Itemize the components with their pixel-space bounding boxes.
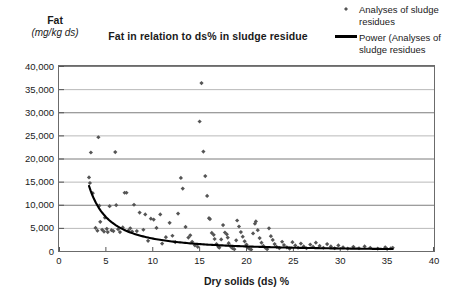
y-tick-marks (59, 67, 64, 252)
x-tick-label: 20 (241, 256, 252, 266)
plot-svg (59, 66, 434, 251)
y-tick-label: 35,000 (6, 85, 54, 95)
x-tick-label: 25 (288, 256, 299, 266)
chart-title: Fat in relation to ds% in sludge residue (88, 30, 328, 42)
legend-label-scatter: Analyses of sludge residues (359, 4, 466, 27)
y-tick-label: 25,000 (6, 131, 54, 141)
legend-item-scatter: Analyses of sludge residues (333, 4, 466, 27)
y-axis-title-units: (mg/kg ds) (12, 27, 98, 40)
legend-marker-icon (333, 4, 359, 11)
legend: Analyses of sludge residues Power (Analy… (333, 4, 466, 60)
legend-label-trendline: Power (Analyses of sludge residues (359, 32, 466, 55)
x-tick-label: 40 (429, 256, 440, 266)
scatter-points (87, 81, 395, 251)
y-tick-label: 20,000 (6, 154, 54, 164)
y-tick-label: 5,000 (6, 223, 54, 233)
legend-line-icon (333, 32, 359, 38)
x-tick-label: 0 (56, 256, 61, 266)
x-tick-label: 15 (194, 256, 205, 266)
y-axis-tick-labels: 05,00010,00015,00020,00025,00030,00035,0… (2, 65, 54, 252)
y-tick-label: 0 (6, 247, 54, 257)
x-tick-label: 10 (147, 256, 158, 266)
y-axis-title-main: Fat (12, 14, 98, 27)
x-tick-label: 5 (103, 256, 108, 266)
y-tick-label: 40,000 (6, 62, 54, 72)
legend-item-trendline: Power (Analyses of sludge residues (333, 32, 466, 55)
power-trendline (89, 186, 393, 249)
x-axis-title: Dry solids (ds) % (58, 275, 435, 287)
y-tick-label: 30,000 (6, 108, 54, 118)
x-tick-label: 30 (335, 256, 346, 266)
y-tick-label: 10,000 (6, 200, 54, 210)
y-tick-label: 15,000 (6, 177, 54, 187)
chart-root: Fat (mg/kg ds) Fat in relation to ds% in… (0, 0, 466, 296)
x-tick-label: 35 (382, 256, 393, 266)
y-axis-title: Fat (mg/kg ds) (12, 14, 98, 40)
x-axis-tick-labels: 0510152025303540 (58, 256, 435, 270)
plot-area (58, 65, 435, 252)
